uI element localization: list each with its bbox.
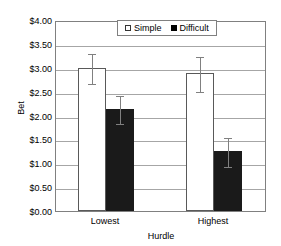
y-axis-tick-labels: $0.00$0.50$1.00$1.50$2.00$2.50$3.00$3.50… <box>12 0 52 246</box>
chart-legend: SimpleDifficult <box>117 20 217 36</box>
y-axis-tick-label: $0.00 <box>14 208 52 217</box>
y-axis-tick-label: $3.00 <box>14 64 52 73</box>
x-axis-category-label-highest: Highest <box>198 216 229 226</box>
error-bar-stem <box>92 54 93 86</box>
x-axis-title: Hurdle <box>55 231 267 241</box>
plot-area <box>55 21 266 212</box>
legend-label: Difficult <box>180 23 209 33</box>
legend-label: Simple <box>134 23 162 33</box>
legend-entry-difficult: Difficult <box>171 23 209 33</box>
y-axis-tick-label: $1.00 <box>14 160 52 169</box>
error-bar-stem <box>120 96 121 125</box>
error-bar-stem <box>200 57 201 93</box>
error-bar-cap-bottom <box>196 92 204 93</box>
legend-entry-simple: Simple <box>125 23 162 33</box>
error-bar-cap-bottom <box>116 124 124 125</box>
x-axis-category-label-lowest: Lowest <box>91 216 120 226</box>
error-bar-cap-bottom <box>224 167 232 168</box>
y-axis-tick-label: $3.50 <box>14 40 52 49</box>
y-axis-tick-label: $4.00 <box>14 17 52 26</box>
legend-swatch-simple-icon <box>125 25 131 31</box>
legend-swatch-difficult-icon <box>171 25 177 31</box>
y-axis-tick-label: $1.50 <box>14 136 52 145</box>
y-axis-tick-label: $2.50 <box>14 88 52 97</box>
bar-simple-lowest <box>78 68 106 211</box>
y-axis-tick-label: $0.50 <box>14 184 52 193</box>
error-bar-cap-bottom <box>88 84 96 85</box>
error-bar-cap-top <box>88 54 96 55</box>
y-axis-tick-label: $2.00 <box>14 112 52 121</box>
error-bar-cap-top <box>224 138 232 139</box>
bar-chart: Bet $0.00$0.50$1.00$1.50$2.00$2.50$3.00$… <box>0 0 281 246</box>
error-bar-stem <box>228 138 229 168</box>
bar-simple-highest <box>186 73 214 211</box>
error-bar-cap-top <box>196 57 204 58</box>
error-bar-cap-top <box>116 96 124 97</box>
gridline <box>56 46 265 47</box>
